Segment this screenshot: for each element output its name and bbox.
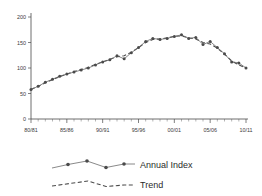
data-point-marker [166, 37, 169, 40]
y-tick-label: 200 [17, 14, 26, 20]
chart-svg: 050100150200 80/8185/8690/9195/9600/0105… [0, 0, 262, 150]
data-point-marker [65, 73, 68, 76]
x-tick-label: 95/96 [132, 127, 146, 133]
x-tick-label: 05/06 [203, 127, 217, 133]
data-point-marker [230, 60, 233, 63]
data-point-marker [30, 88, 33, 91]
y-tick-label: 150 [17, 40, 26, 46]
data-point-marker [194, 36, 197, 39]
chart-root: 050100150200 80/8185/8690/9195/9600/0105… [0, 0, 262, 196]
data-point-marker [137, 46, 140, 49]
data-point-marker [187, 37, 190, 40]
data-point-marker [51, 78, 54, 81]
annual-index-series-line [31, 35, 246, 90]
data-point-marker [87, 67, 90, 70]
data-point-marker [159, 38, 162, 41]
data-point-marker [173, 35, 176, 38]
legend-marker-dot [66, 163, 70, 167]
x-tick-label: 10/11 [239, 127, 252, 133]
legend-marker-dot [85, 159, 89, 163]
data-point-marker [108, 58, 111, 61]
data-point-marker [73, 71, 76, 74]
y-tick-label: 100 [17, 65, 26, 71]
data-point-marker [180, 33, 183, 36]
legend-entry-trend: Trend [52, 180, 163, 190]
data-point-marker [237, 61, 240, 64]
y-tick-label: 0 [23, 116, 26, 122]
data-point-marker [94, 63, 97, 66]
data-point-marker [202, 43, 205, 46]
legend-marker-dot [122, 162, 126, 166]
data-point-marker [216, 46, 219, 49]
trend-series-line [31, 36, 246, 90]
data-point-marker [151, 37, 154, 40]
data-point-marker [209, 40, 212, 43]
legend-label-annual-index: Annual Index [140, 160, 193, 170]
y-axis: 050100150200 [17, 14, 31, 122]
legend-marker-dot [104, 166, 108, 170]
legend-trend-line [52, 181, 135, 187]
data-point-marker [37, 85, 40, 88]
x-tick-label: 85/86 [60, 127, 74, 133]
y-tick-label: 50 [20, 91, 26, 97]
x-tick-label: 00/01 [168, 127, 182, 133]
x-tick-label: 90/91 [96, 127, 110, 133]
x-axis: 80/8185/8690/9195/9600/0105/0610/11 [24, 119, 252, 133]
chart-plot-area: 050100150200 80/8185/8690/9195/9600/0105… [0, 0, 262, 150]
legend-svg: Annual Index Trend [0, 150, 262, 196]
data-point-marker [116, 54, 119, 57]
chart-legend: Annual Index Trend [0, 150, 262, 196]
data-point-marker [130, 51, 133, 54]
legend-entry-annual-index: Annual Index [52, 159, 193, 169]
data-point-marker [101, 60, 104, 63]
data-point-marker [123, 57, 126, 60]
legend-label-trend: Trend [140, 180, 163, 190]
data-point-marker [44, 81, 47, 84]
data-point-marker [80, 69, 83, 72]
data-point-marker [245, 67, 248, 70]
data-point-marker [58, 75, 61, 78]
x-tick-label: 80/81 [24, 127, 38, 133]
annual-index-markers [30, 33, 248, 91]
data-point-marker [223, 52, 226, 55]
data-point-marker [144, 40, 147, 43]
